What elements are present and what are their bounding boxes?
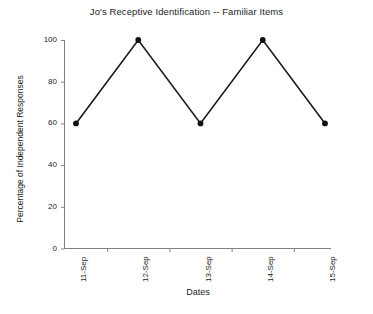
x-axis-tick-label: 14-Sep [267,256,275,282]
data-point-marker [198,121,204,127]
y-axis-tick-label: 60 [31,119,57,127]
y-axis-tick-label: 0 [31,245,57,253]
y-axis-ticks [61,41,65,250]
x-axis-tick-label: 13-Sep [205,256,213,282]
data-point-marker [322,121,328,127]
line-chart: Jo's Receptive Identification -- Familia… [0,0,373,314]
x-axis-tick-label: 11-Sep [80,256,88,281]
data-point-marker [135,37,141,43]
x-axis-tick-label: 15-Sep [329,256,337,282]
x-axis-ticks [108,249,295,253]
data-point-marker [260,37,266,43]
series-line [76,40,325,123]
y-axis-tick-label: 100 [31,36,57,44]
y-axis-tick-label: 40 [31,161,57,169]
x-axis-tick-label: 12-Sep [142,256,150,282]
data-point-marker [73,121,79,127]
y-axis-tick-label: 80 [31,78,57,86]
plot-area [0,0,373,314]
series-markers [73,37,328,126]
y-axis-tick-label: 20 [31,203,57,211]
